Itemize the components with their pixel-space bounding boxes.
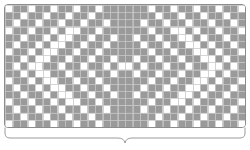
bottom-brace (0, 126, 250, 150)
stitch-chart-grid (5, 5, 245, 127)
brace-path (5, 128, 245, 143)
stitch-chart-frame (4, 4, 246, 128)
figure-root (0, 0, 250, 150)
